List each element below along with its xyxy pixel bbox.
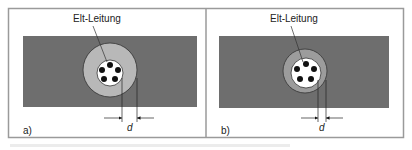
cable-label-b: Elt-Leitung xyxy=(270,13,318,24)
dimension-label-a: d xyxy=(127,122,133,133)
cable-label-a: Elt-Leitung xyxy=(73,13,121,24)
dimension-label-b: d xyxy=(319,122,325,133)
panel-label-a: a) xyxy=(23,125,32,136)
caption-remnant xyxy=(10,144,290,147)
figure-canvas: Elt-Leitung d a) Elt-Leitung d b) xyxy=(0,0,412,150)
panel-label-b: b) xyxy=(221,125,230,136)
